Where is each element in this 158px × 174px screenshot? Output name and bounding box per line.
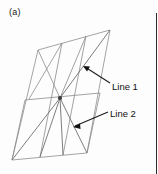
line-1-leader xyxy=(85,67,110,83)
line-2-label: Line 2 xyxy=(110,108,136,119)
mesh-edge-upper-diag-a xyxy=(29,43,62,99)
figure-panel: (a) Line 1 Line 2 xyxy=(0,0,158,174)
mesh-edge-tl-hub xyxy=(38,50,60,98)
line-1-arrowhead xyxy=(83,66,90,72)
mesh-figure: Line 1 Line 2 xyxy=(0,0,158,174)
mesh-center-node xyxy=(58,96,62,100)
mesh-spoke-hub-bottom-right xyxy=(60,98,63,155)
mesh-edge-right-lower xyxy=(87,93,100,153)
mesh-diagonal-hub-br xyxy=(60,98,87,153)
line-1-label: Line 1 xyxy=(112,81,138,92)
right-border-rule xyxy=(156,13,158,174)
mesh-edge-upper-diag-b xyxy=(60,36,86,98)
